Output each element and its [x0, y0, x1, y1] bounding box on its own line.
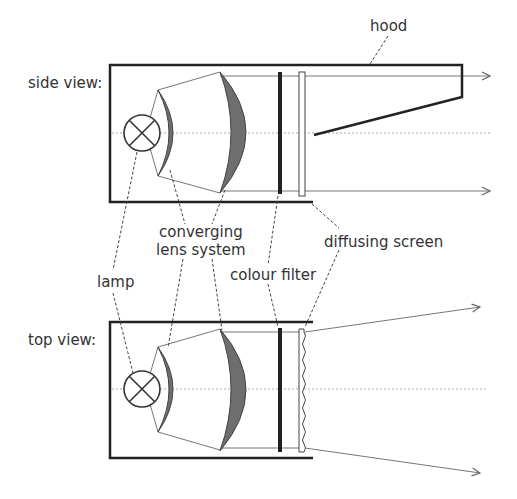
converging-lens-label-line1: converging: [159, 223, 243, 241]
top-view-label: top view:: [28, 331, 96, 349]
hood-leader: [370, 36, 388, 64]
hood-label: hood: [370, 17, 407, 35]
converging-lens-label-line2: lens system: [156, 241, 246, 259]
diffusing-screen-label: diffusing screen: [324, 233, 443, 251]
lamp-label: lamp: [97, 273, 135, 291]
light-rays-top: [150, 307, 480, 473]
colour-filter-top: [278, 328, 282, 452]
side-view: side view:: [28, 65, 492, 202]
condenser-lens-large-top: [220, 329, 246, 451]
top-view: top view:: [28, 307, 487, 473]
diffusing-screen-top: [299, 329, 306, 452]
lamp-icon-top: [124, 371, 160, 407]
diffusing-screen-side: [299, 72, 305, 196]
colour-filter-side: [278, 72, 282, 194]
projector-lamp-diagram: side view: hood to: [0, 0, 517, 499]
side-view-label: side view:: [28, 74, 102, 92]
colour-filter-label: colour filter: [230, 266, 317, 284]
condenser-lens-large: [220, 72, 246, 193]
lamp-icon: [124, 115, 160, 151]
